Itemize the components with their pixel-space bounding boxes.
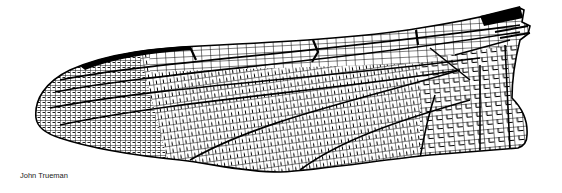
wing-venation	[0, 0, 562, 193]
illustration-credit: John Trueman	[20, 171, 68, 180]
dragonfly-wing-illustration	[0, 0, 562, 193]
